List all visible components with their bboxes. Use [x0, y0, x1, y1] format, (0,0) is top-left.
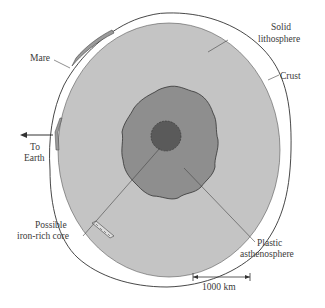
label-plastic: Plastic — [257, 238, 282, 248]
moon-structure-diagram: Mare Solid lithosphere Crust To Earth Po… — [0, 0, 325, 308]
label-possible: Possible — [35, 220, 67, 230]
label-earth: Earth — [24, 153, 45, 163]
label-crust: Crust — [280, 71, 301, 81]
label-solid: Solid — [271, 22, 291, 32]
label-asthenosphere: asthenosphere — [240, 249, 294, 259]
label-to: To — [30, 142, 40, 152]
to-earth-arrow-icon — [20, 132, 27, 138]
leader-mare — [54, 60, 70, 68]
label-lithosphere: lithosphere — [258, 34, 300, 44]
label-iron-rich-core: iron-rich core — [17, 231, 69, 241]
iron-core — [151, 121, 181, 151]
label-mare: Mare — [30, 53, 50, 63]
scale-bar-label: 1000 km — [202, 282, 236, 292]
